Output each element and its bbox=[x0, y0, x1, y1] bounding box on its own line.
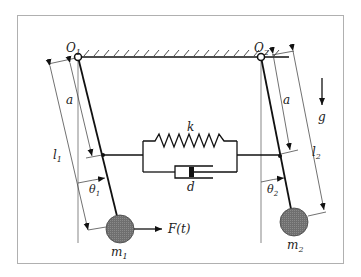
dimension-lines-left bbox=[48, 58, 106, 230]
label-spring-k: k bbox=[187, 120, 194, 134]
coupling bbox=[103, 134, 280, 178]
label-l2: l2 bbox=[312, 145, 321, 161]
label-theta1: θ1 bbox=[89, 183, 100, 198]
label-gravity: g bbox=[318, 110, 326, 124]
pendulum-1 bbox=[75, 54, 135, 244]
spring-k bbox=[143, 134, 237, 147]
label-mass-1: m1 bbox=[111, 245, 127, 261]
label-pivot-2: O2 bbox=[254, 41, 269, 57]
label-mass-2: m2 bbox=[287, 238, 303, 254]
mass-1 bbox=[106, 215, 134, 243]
damper-d bbox=[175, 166, 237, 178]
label-a-left: a bbox=[66, 93, 73, 107]
label-force: F(t) bbox=[167, 222, 191, 236]
label-theta2: θ2 bbox=[267, 183, 279, 198]
label-a-right: a bbox=[283, 93, 290, 107]
label-damper-d: d bbox=[187, 180, 195, 194]
label-pivot-1: O1 bbox=[66, 41, 81, 57]
pendulum-diagram: O1 O2 a a l1 l2 θ1 θ2 k d m1 m2 F(t) g bbox=[0, 0, 361, 277]
label-l1: l1 bbox=[53, 148, 62, 164]
pendulum-2 bbox=[258, 54, 309, 237]
mass-2 bbox=[280, 208, 308, 236]
